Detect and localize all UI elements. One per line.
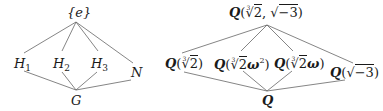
radicand: −3 [355,64,374,80]
edge-n-g [76,80,131,90]
separator: , [262,5,270,20]
node-field-sqrt-neg3: Q(√−3) [330,66,379,79]
root-index: 3 [291,56,295,62]
node-group-g: G [71,94,81,107]
field-symbol: Q [165,56,176,71]
node-field-cbrt2-omega2: Q(3√2ω2) [214,57,270,71]
node-splitting-field: Q(3√2, √−3) [229,6,303,19]
field-symbol: Q [214,57,225,72]
radicand: 2 [239,56,247,72]
field-symbol: Q [229,5,240,20]
radical-sign: √ [346,65,354,80]
node-base: H [91,56,102,71]
node-label: Q [262,93,273,108]
node-subscript: 1 [25,63,31,73]
close-paren: ) [198,56,203,71]
node-normal-subgroup: N [131,66,142,79]
node-field-cbrt2-omega: Q(3√2ω) [274,57,324,70]
edge-h3-g [76,72,97,90]
node-label: N [131,65,142,80]
radicand: 2 [190,55,198,71]
root-index: 3 [246,5,250,11]
radicand: 2 [299,55,307,71]
node-rationals: Q [262,94,273,107]
edge-top-f3 [267,25,293,51]
node-subscript: 3 [102,63,108,73]
close-paren: ) [264,57,269,72]
radical-sign: √ [270,5,278,20]
root-index: 3 [182,56,186,62]
close-paren: ) [319,56,324,71]
radicand: 2 [254,4,262,20]
edge-top-f1 [182,25,267,53]
field-symbol: Q [274,56,285,71]
node-label: {e} [67,5,91,20]
node-h2: H2 [53,57,70,73]
node-subscript: 2 [64,63,70,73]
edge-f1-q [184,72,267,91]
node-h1: H1 [14,57,31,73]
node-field-cbrt2: Q(3√2) [165,57,203,70]
node-base: H [53,56,64,71]
radicand: −3 [279,4,298,20]
node-h3: H3 [91,57,108,73]
edge-e-h3 [76,22,98,51]
node-identity-subgroup: {e} [67,6,91,19]
node-label: G [71,93,81,108]
close-paren: ) [298,5,303,20]
field-symbol: Q [330,65,341,80]
omega-symbol: ω [307,56,319,71]
omega-symbol: ω [247,57,259,72]
node-base: H [14,56,25,71]
close-paren: ) [374,65,379,80]
root-index: 3 [231,57,235,63]
